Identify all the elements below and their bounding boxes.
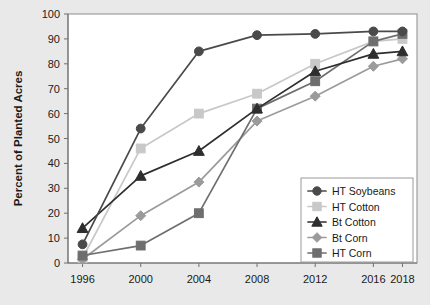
y-axis-tick-label: 20 bbox=[48, 207, 60, 219]
legend-item-label: Bt Corn bbox=[332, 232, 368, 244]
data-point-square bbox=[136, 241, 145, 250]
data-point-square bbox=[194, 109, 203, 118]
data-point-circle bbox=[136, 124, 145, 133]
x-axis-tick-label: 2016 bbox=[361, 273, 385, 285]
y-axis-tick-label: 60 bbox=[48, 108, 60, 120]
data-point-square bbox=[253, 89, 262, 98]
legend-item-bt-corn[interactable]: Bt Corn bbox=[308, 232, 368, 244]
data-point-circle bbox=[313, 187, 321, 195]
x-axis-tick-label: 2018 bbox=[390, 273, 414, 285]
x-axis-tick-label: 2008 bbox=[245, 273, 269, 285]
legend-item-ht-cotton[interactable]: HT Cotton bbox=[308, 201, 380, 213]
legend-item-label: HT Soybeans bbox=[332, 185, 395, 197]
legend-item-label: HT Corn bbox=[332, 247, 372, 259]
data-point-circle bbox=[398, 27, 407, 36]
x-axis-tick-label: 2004 bbox=[187, 273, 211, 285]
legend-item-label: HT Cotton bbox=[332, 201, 380, 213]
data-point-square bbox=[194, 209, 203, 218]
chart-container: 0102030405060708090100Percent of Planted… bbox=[0, 0, 430, 305]
y-axis-tick-label: 90 bbox=[48, 33, 60, 45]
legend-item-ht-corn[interactable]: HT Corn bbox=[308, 247, 372, 259]
data-point-square bbox=[78, 251, 87, 260]
data-point-circle bbox=[194, 47, 203, 56]
data-point-square bbox=[313, 249, 321, 257]
legend-item-label: Bt Cotton bbox=[332, 216, 376, 228]
y-axis-tick-label: 80 bbox=[48, 58, 60, 70]
y-axis-tick-label: 100 bbox=[42, 8, 60, 20]
legend: HT SoybeansHT CottonBt CottonBt CornHT C… bbox=[301, 178, 413, 262]
data-point-circle bbox=[369, 27, 378, 36]
y-axis-tick-label: 10 bbox=[48, 232, 60, 244]
x-axis-tick-label: 2000 bbox=[128, 273, 152, 285]
x-axis-tick-label: 1996 bbox=[70, 273, 94, 285]
data-point-circle bbox=[78, 240, 87, 249]
data-point-square bbox=[313, 202, 321, 210]
data-point-circle bbox=[253, 31, 262, 40]
y-axis-tick-label: 50 bbox=[48, 133, 60, 145]
data-point-circle bbox=[311, 30, 320, 39]
y-axis-tick-label: 70 bbox=[48, 83, 60, 95]
y-axis-tick-label: 30 bbox=[48, 182, 60, 194]
data-point-square bbox=[369, 37, 378, 46]
line-chart: 0102030405060708090100Percent of Planted… bbox=[0, 0, 430, 305]
y-axis-tick-label: 0 bbox=[54, 257, 60, 269]
y-axis-title: Percent of Planted Acres bbox=[12, 71, 24, 207]
y-axis-tick-label: 40 bbox=[48, 157, 60, 169]
x-axis-tick-label: 2012 bbox=[303, 273, 327, 285]
data-point-square bbox=[136, 144, 145, 153]
data-point-square bbox=[311, 77, 320, 86]
